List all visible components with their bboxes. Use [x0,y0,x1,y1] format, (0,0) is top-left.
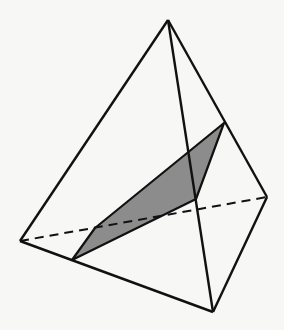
tetrahedron-diagram [0,0,284,330]
edge-bottom-right [213,197,267,312]
edge-left-bottom [20,241,213,312]
